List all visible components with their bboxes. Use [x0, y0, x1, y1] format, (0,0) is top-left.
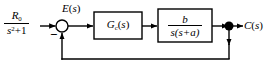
- input-numerator: R0: [4, 10, 29, 23]
- output-argument: (s): [251, 19, 263, 31]
- summing-junction-circle: [56, 20, 68, 32]
- error-argument: (s): [69, 2, 81, 14]
- plant-block-rect: [158, 9, 212, 42]
- summing-junction-negative-sign: −: [50, 28, 57, 41]
- error-signal-label: E(s): [62, 3, 80, 14]
- control-system-block-diagram: R0 s2+1 E(s) − Gc(s) b s(s+a) C(s): [0, 0, 276, 71]
- diagram-canvas: [0, 0, 276, 71]
- output-signal-label: C(s): [244, 20, 263, 31]
- controller-block-rect: [94, 12, 142, 39]
- error-symbol: E: [62, 2, 69, 14]
- input-denominator: s2+1: [4, 25, 29, 36]
- input-fraction: R0 s2+1: [4, 10, 29, 36]
- reference-input-label: R0 s2+1: [4, 10, 29, 36]
